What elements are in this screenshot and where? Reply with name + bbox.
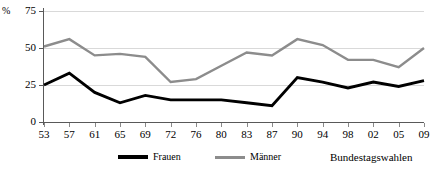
legend-label-frauen: Frauen bbox=[153, 151, 181, 163]
chart-series-svg bbox=[0, 0, 433, 172]
line-chart: % 0255075 535761656972768083879094980205… bbox=[0, 0, 433, 172]
legend-swatch-frauen bbox=[118, 155, 148, 159]
series-line-maenner bbox=[44, 39, 424, 82]
legend-label-maenner: Männer bbox=[250, 151, 281, 163]
legend-swatch-maenner bbox=[215, 156, 245, 159]
series-line-frauen bbox=[44, 73, 424, 106]
legend-item-frauen: Frauen bbox=[118, 150, 181, 164]
legend-item-maenner: Männer bbox=[215, 150, 281, 164]
x-axis-caption: Bundestagswahlen bbox=[330, 151, 412, 164]
